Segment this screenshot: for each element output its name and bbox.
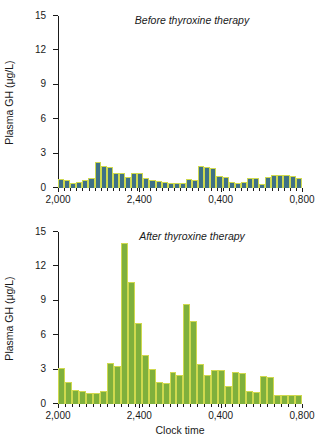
y-axis-tick: 9 bbox=[53, 84, 58, 85]
x-axis-minor-tick bbox=[198, 188, 199, 191]
chart-panel-before: Plasma GH (μg/L) Before thyroxine therap… bbox=[0, 2, 318, 214]
x-axis-minor-tick bbox=[267, 404, 268, 407]
bar bbox=[128, 282, 135, 404]
x-axis-minor-tick bbox=[79, 404, 80, 407]
x-axis-minor-tick bbox=[239, 404, 240, 407]
bar bbox=[232, 372, 239, 404]
x-axis-minor-tick bbox=[95, 188, 96, 191]
bar bbox=[281, 395, 288, 404]
x-axis-minor-tick bbox=[113, 188, 114, 191]
x-axis-minor-tick bbox=[183, 404, 184, 407]
x-axis-minor-tick bbox=[174, 188, 175, 191]
y-axis-tick-label: 12 bbox=[35, 261, 46, 271]
x-axis-minor-tick bbox=[65, 404, 66, 407]
x-axis-tick-label: 2,400 bbox=[127, 195, 152, 205]
x-axis-minor-tick bbox=[177, 404, 178, 407]
y-axis-tick: 6 bbox=[53, 334, 58, 335]
x-axis-minor-tick bbox=[186, 188, 187, 191]
x-axis-minor-tick bbox=[163, 404, 164, 407]
x-axis-minor-tick bbox=[128, 404, 129, 407]
x-axis-minor-tick bbox=[156, 404, 157, 407]
x-axis-minor-tick bbox=[223, 188, 224, 191]
x-axis-minor-tick bbox=[218, 404, 219, 407]
x-axis-minor-tick bbox=[72, 404, 73, 407]
y-axis-tick-label: 12 bbox=[35, 45, 46, 55]
y-axis-tick-label: 3 bbox=[40, 148, 46, 158]
y-axis-label-text-before: Plasma GH (μg/L) bbox=[4, 60, 15, 144]
x-axis-minor-tick bbox=[225, 404, 226, 407]
bar bbox=[246, 391, 253, 404]
x-axis-minor-tick bbox=[296, 188, 297, 191]
x-axis-minor-tick bbox=[274, 404, 275, 407]
x-axis-minor-tick bbox=[114, 404, 115, 407]
x-axis-tick-label: 0,400 bbox=[208, 195, 233, 205]
x-axis-minor-tick bbox=[259, 188, 260, 191]
y-axis-tick: 12 bbox=[53, 265, 58, 266]
y-axis-tick: 15 bbox=[53, 15, 58, 16]
x-axis-tick-label: 2,400 bbox=[127, 411, 152, 421]
x-axis-minor-tick bbox=[229, 188, 230, 191]
x-axis-minor-tick bbox=[82, 188, 83, 191]
bar bbox=[274, 395, 281, 404]
x-axis-minor-tick bbox=[121, 404, 122, 407]
x-axis-minor-tick bbox=[284, 188, 285, 191]
bar bbox=[65, 382, 72, 404]
y-axis-label-before: Plasma GH (μg/L) bbox=[2, 16, 16, 188]
y-axis-tick-label: 0 bbox=[40, 399, 46, 409]
bar bbox=[296, 178, 302, 188]
y-axis-tick-label: 6 bbox=[40, 330, 46, 340]
y-axis-tick: 6 bbox=[53, 118, 58, 119]
bar bbox=[149, 369, 156, 404]
x-axis-minor-tick bbox=[86, 404, 87, 407]
x-axis-minor-tick bbox=[168, 188, 169, 191]
bar bbox=[72, 390, 79, 404]
x-axis-minor-tick bbox=[135, 404, 136, 407]
x-axis-minor-tick bbox=[137, 188, 138, 191]
y-axis-tick-label: 6 bbox=[40, 114, 46, 124]
x-axis-tick-label: 2,000 bbox=[45, 411, 70, 421]
x-axis-minor-tick bbox=[197, 404, 198, 407]
x-axis-tick-label: 0,800 bbox=[289, 411, 314, 421]
y-axis-tick: 9 bbox=[53, 300, 58, 301]
y-axis-tick: 3 bbox=[53, 153, 58, 154]
x-axis-minor-tick bbox=[89, 188, 90, 191]
x-axis-tick bbox=[302, 188, 303, 192]
bar bbox=[190, 321, 197, 404]
bar bbox=[225, 386, 232, 404]
x-axis-minor-tick bbox=[100, 404, 101, 407]
x-axis-minor-tick bbox=[246, 404, 247, 407]
x-axis-minor-tick bbox=[150, 188, 151, 191]
bar bbox=[183, 304, 190, 404]
x-axis-minor-tick bbox=[64, 188, 65, 191]
y-axis-tick: 15 bbox=[53, 231, 58, 232]
bar bbox=[79, 391, 86, 404]
y-axis-tick: 12 bbox=[53, 49, 58, 50]
x-axis-minor-tick bbox=[204, 188, 205, 191]
x-axis-minor-tick bbox=[76, 188, 77, 191]
bar bbox=[211, 370, 218, 404]
y-axis-label-text-after: Plasma GH (μg/L) bbox=[4, 276, 15, 360]
plot-area-after: 03691215 2,0002,4000,4000,800 bbox=[58, 232, 302, 404]
bar bbox=[295, 395, 302, 404]
x-axis-tick bbox=[302, 404, 303, 408]
x-axis-minor-tick bbox=[143, 188, 144, 191]
bar bbox=[204, 375, 211, 404]
bar bbox=[288, 395, 295, 404]
x-axis-tick-label: 2,000 bbox=[45, 195, 70, 205]
bar-series-before bbox=[58, 16, 302, 188]
bar bbox=[176, 375, 183, 404]
x-axis-minor-tick bbox=[235, 188, 236, 191]
x-axis-minor-tick bbox=[247, 188, 248, 191]
x-axis-minor-tick bbox=[180, 188, 181, 191]
x-axis-tick bbox=[221, 404, 222, 408]
x-axis-tick bbox=[58, 404, 59, 408]
x-axis-label: Clock time bbox=[58, 424, 302, 436]
x-axis-minor-tick bbox=[217, 188, 218, 191]
x-axis-minor-tick bbox=[253, 404, 254, 407]
bar bbox=[107, 363, 114, 404]
x-axis-minor-tick bbox=[253, 188, 254, 191]
x-axis-minor-tick bbox=[241, 188, 242, 191]
growth-hormone-figure: Plasma GH (μg/L) Before thyroxine therap… bbox=[0, 0, 318, 443]
x-axis-tick bbox=[221, 188, 222, 192]
x-axis-tick-label: 0,800 bbox=[289, 195, 314, 205]
